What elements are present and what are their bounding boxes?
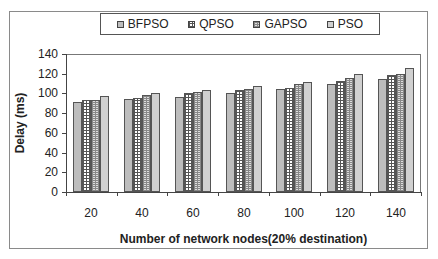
bar-qpso-80: [235, 90, 244, 192]
y-tick: [62, 54, 66, 55]
legend-item-pso: PSO: [327, 17, 363, 31]
bar-bfpso-80: [226, 93, 235, 192]
bar-gapso-80: [244, 89, 253, 192]
x-tick: [218, 192, 219, 196]
bar-qpso-20: [82, 100, 91, 192]
bar-bfpso-20: [73, 102, 82, 192]
bar-gapso-140: [396, 74, 405, 192]
y-tick-label: 80: [22, 106, 58, 120]
x-tick-label: 60: [186, 206, 199, 220]
legend-swatch-qpso: [188, 21, 195, 28]
legend-label: PSO: [338, 17, 363, 31]
x-tick: [66, 192, 67, 196]
bar-qpso-60: [184, 93, 193, 192]
bar-pso-40: [151, 93, 160, 192]
legend-swatch-pso: [327, 21, 334, 28]
legend-label: GAPSO: [264, 17, 307, 31]
legend-item-bfpso: BFPSO: [117, 17, 169, 31]
y-tick-label: 40: [22, 146, 58, 160]
y-tick: [62, 93, 66, 94]
x-tick: [117, 192, 118, 196]
x-tick-label: 140: [386, 206, 406, 220]
bar-qpso-140: [387, 75, 396, 192]
bar-bfpso-120: [327, 84, 336, 192]
y-tick: [62, 133, 66, 134]
y-tick: [62, 172, 66, 173]
bar-qpso-120: [336, 81, 345, 192]
bar-pso-120: [354, 74, 363, 192]
x-tick: [167, 192, 168, 196]
y-tick: [62, 153, 66, 154]
y-tick-label: 0: [22, 185, 58, 199]
bar-gapso-40: [142, 95, 151, 192]
bar-pso-80: [253, 86, 262, 192]
x-tick: [269, 192, 270, 196]
bar-bfpso-100: [276, 89, 285, 192]
x-tick-label: 100: [284, 206, 304, 220]
bar-gapso-100: [294, 84, 303, 192]
x-tick: [320, 192, 321, 196]
bar-gapso-60: [193, 92, 202, 192]
y-tick-label: 100: [22, 86, 58, 100]
bar-bfpso-40: [124, 99, 133, 192]
x-tick-label: 120: [335, 206, 355, 220]
y-tick: [62, 113, 66, 114]
bar-pso-140: [405, 68, 414, 192]
legend-swatch-gapso: [253, 21, 260, 28]
bar-bfpso-60: [175, 97, 184, 192]
bar-pso-60: [202, 90, 211, 192]
bar-pso-100: [303, 82, 312, 192]
bar-gapso-120: [345, 78, 354, 192]
y-tick-label: 120: [22, 67, 58, 81]
y-tick: [62, 74, 66, 75]
y-tick-label: 60: [22, 126, 58, 140]
bar-qpso-100: [285, 88, 294, 192]
y-axis: [66, 54, 67, 193]
legend-item-qpso: QPSO: [188, 17, 234, 31]
x-axis: [66, 192, 421, 193]
legend-item-gapso: GAPSO: [253, 17, 307, 31]
bar-qpso-40: [133, 98, 142, 192]
legend-swatch-bfpso: [117, 21, 124, 28]
legend: BFPSO QPSO GAPSO PSO: [100, 13, 380, 35]
y-tick-label: 20: [22, 165, 58, 179]
x-tick: [421, 192, 422, 196]
bar-bfpso-140: [378, 79, 387, 192]
x-axis-label: Number of network nodes(20% destination): [66, 232, 421, 246]
bar-pso-20: [100, 96, 109, 192]
x-tick: [370, 192, 371, 196]
y-tick-label: 140: [22, 47, 58, 61]
legend-label: QPSO: [199, 17, 234, 31]
x-tick-label: 40: [135, 206, 148, 220]
legend-label: BFPSO: [128, 17, 169, 31]
x-tick-label: 20: [84, 206, 97, 220]
bar-gapso-20: [91, 100, 100, 192]
x-tick-label: 80: [237, 206, 250, 220]
